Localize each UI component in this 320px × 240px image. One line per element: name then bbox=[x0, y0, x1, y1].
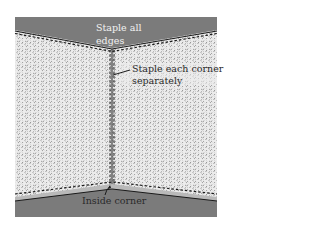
label-line: separately bbox=[132, 76, 223, 86]
label-line: Staple each corner bbox=[132, 64, 223, 74]
label-staple-each-corner: Staple each corner separately bbox=[132, 64, 223, 86]
label-line: Staple all bbox=[96, 23, 142, 33]
label-line: Inside corner bbox=[82, 195, 146, 206]
label-staple-all-edges: Staple all edges bbox=[96, 23, 142, 46]
label-inside-corner: Inside corner bbox=[82, 196, 146, 206]
label-line: edges bbox=[96, 36, 142, 46]
